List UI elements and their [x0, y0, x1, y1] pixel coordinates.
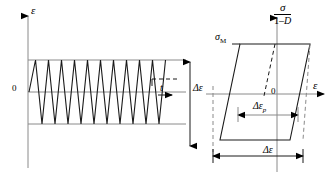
- right-y-axis-numerator: σ: [274, 2, 291, 14]
- plastic-strain-symbol: Δε: [253, 100, 263, 111]
- figure-container: ε 0 t Δε σ 1–D σM 0 ε Δεp Δε: [0, 0, 334, 180]
- right-origin-label: 0: [271, 87, 276, 96]
- left-strain-range-label: Δε: [193, 83, 203, 93]
- left-origin-label: 0: [12, 84, 17, 93]
- left-y-axis-label: ε: [31, 5, 35, 16]
- denominator-variable: D: [284, 15, 291, 26]
- left-x-axis-label: t: [160, 83, 163, 93]
- peak-stress-label: σM: [215, 32, 226, 45]
- plastic-strain-range-label: Δεp: [253, 101, 266, 114]
- left-panel-group: [28, 16, 190, 168]
- right-y-axis-label: σ 1–D: [274, 2, 291, 26]
- right-y-axis-denominator: 1–D: [274, 15, 291, 26]
- peak-stress-subscript: M: [220, 37, 226, 45]
- denominator-prefix: 1–: [274, 15, 284, 26]
- right-x-axis-label: ε: [313, 80, 317, 91]
- total-strain-range-label: Δε: [263, 145, 273, 155]
- plastic-strain-subscript: p: [263, 106, 267, 114]
- figure-vector-graphics: [0, 0, 334, 180]
